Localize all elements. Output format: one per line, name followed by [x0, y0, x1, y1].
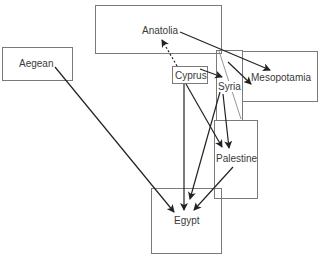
- region-label-mesopotamia: Mesopotamia: [251, 72, 311, 83]
- arrows-layer: [0, 0, 323, 265]
- arrow-syria-palestine: [223, 94, 229, 148]
- region-label-aegean: Aegean: [19, 58, 53, 69]
- arrow-cyprus-anatolia: [162, 40, 177, 66]
- region-label-palestine: Palestine: [216, 153, 257, 164]
- arrow-syria-egypt: [190, 92, 220, 199]
- region-label-cyprus: Cyprus: [175, 70, 207, 81]
- arrow-anatolia-mesopotamia: [180, 32, 270, 70]
- arrow-aegean-egypt: [55, 67, 174, 212]
- diagram-canvas: Anatolia Aegean Cyprus Syria Mesopotamia…: [0, 0, 323, 265]
- region-label-anatolia: Anatolia: [142, 25, 178, 36]
- region-label-egypt: Egypt: [174, 215, 200, 226]
- arrow-palestine-egypt: [194, 167, 233, 210]
- region-label-syria: Syria: [218, 81, 241, 92]
- arrow-cyprus-palestine: [186, 84, 222, 147]
